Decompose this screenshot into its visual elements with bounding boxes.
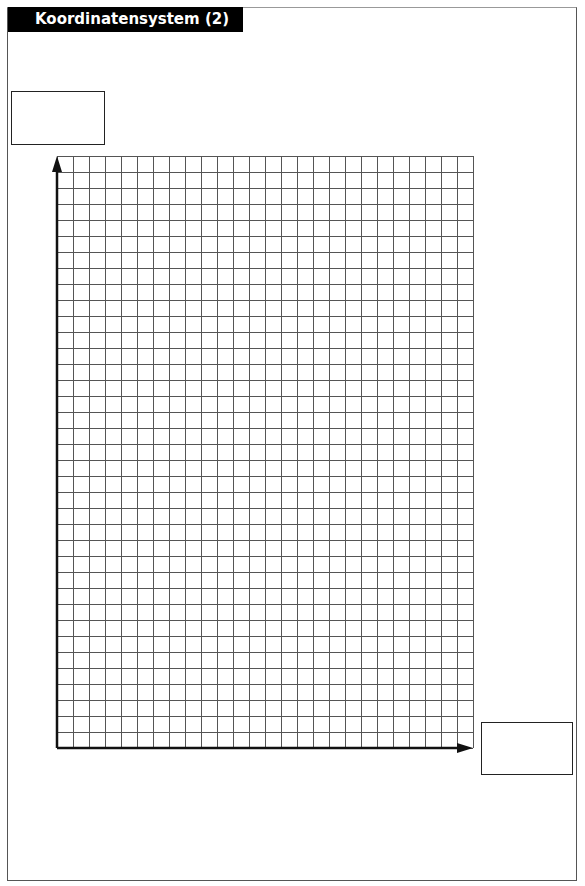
coordinate-grid <box>0 0 585 886</box>
y-axis-arrow-icon <box>52 156 62 172</box>
grid-lines <box>57 156 474 749</box>
x-axis-arrow-icon <box>457 743 473 753</box>
